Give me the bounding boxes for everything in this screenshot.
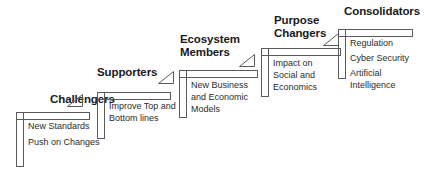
bracket-top-bar-challengers (16, 112, 90, 120)
list-item: Push on Changes (28, 137, 106, 149)
bracket-top-bar-ecosystem-members (179, 70, 258, 78)
step-title-purpose-changers: Purpose Changers (274, 14, 326, 40)
list-item: Improve Top and Bottom lines (109, 101, 181, 125)
step-items-supporters: Improve Top and Bottom lines (109, 101, 181, 125)
step-title-ecosystem-members: Ecosystem Members (180, 33, 240, 59)
right-triangle-icon (238, 53, 254, 67)
list-item: Regulation (350, 38, 420, 50)
bracket-top-bar-purpose-changers (261, 48, 341, 56)
bracket-left-bar-purpose-changers (261, 48, 269, 97)
bracket-left-bar-supporters (97, 92, 105, 139)
list-item: Impact on Social and Economics (273, 58, 335, 94)
bracket-left-bar-ecosystem-members (179, 70, 187, 118)
step-items-challengers: New Standards Push on Changes (28, 121, 106, 149)
bracket-left-bar-challengers (16, 112, 24, 167)
list-item: Cyber Security (350, 53, 420, 65)
step-items-consolidators: Regulation Cyber Security Artificial Int… (350, 38, 420, 92)
list-item: Artificial Intelligence (350, 68, 420, 92)
staircase-diagram: Challengers New Standards Push on Change… (0, 0, 424, 169)
right-triangle-icon (66, 93, 82, 107)
list-item: New Business and Economic Models (191, 80, 257, 116)
step-items-purpose-changers: Impact on Social and Economics (273, 58, 335, 94)
right-triangle-icon (157, 70, 173, 84)
right-triangle-icon (322, 32, 338, 46)
step-title-consolidators: Consolidators (344, 5, 420, 18)
bracket-top-bar-supporters (97, 92, 171, 100)
step-items-ecosystem-members: New Business and Economic Models (191, 80, 257, 116)
step-title-supporters: Supporters (97, 66, 157, 79)
list-item: New Standards (28, 121, 106, 133)
bracket-left-bar-consolidators (338, 29, 346, 79)
bracket-top-bar-consolidators (338, 29, 413, 37)
